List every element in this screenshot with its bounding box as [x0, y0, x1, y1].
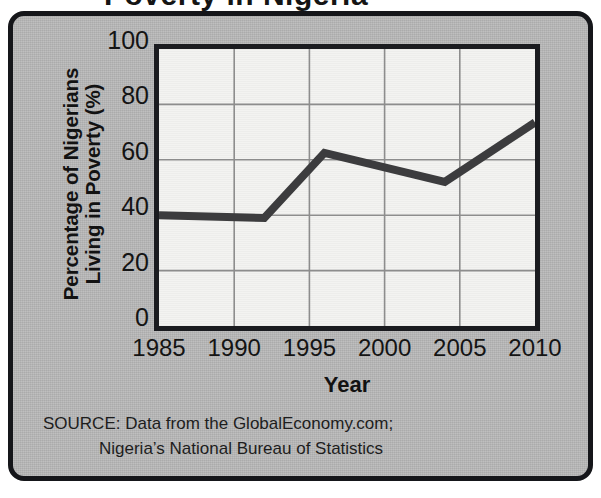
data-line	[159, 122, 535, 218]
y-axis-tick-label: 80	[91, 83, 149, 108]
x-axis-tick-label: 2010	[508, 336, 561, 360]
x-axis-tick-label: 1990	[207, 336, 260, 360]
x-axis-title: Year	[154, 372, 540, 398]
y-axis-tick-label: 60	[91, 138, 149, 163]
y-axis-tick-label: 40	[91, 194, 149, 219]
x-axis-tick-label: 2000	[358, 336, 411, 360]
poverty-line-chart: Percentage of Nigerians Living in Povert…	[13, 16, 598, 486]
y-axis-tick-label: 0	[91, 305, 149, 330]
x-axis-tick-labels: 198519901995200020052010	[154, 336, 540, 368]
y-axis-title-line-1: Percentage of Nigerians	[60, 68, 82, 300]
source-note: SOURCE: Data from the GlobalEconomy.com;…	[43, 412, 563, 461]
plot-inner	[159, 49, 535, 326]
x-axis-tick-label: 1985	[132, 336, 185, 360]
y-axis-tick-label: 100	[91, 28, 149, 53]
data-series-line	[159, 49, 535, 326]
source-line-1: SOURCE: Data from the GlobalEconomy.com;	[43, 412, 563, 437]
figure-panel: Percentage of Nigerians Living in Povert…	[8, 11, 593, 481]
x-axis-tick-label: 2005	[433, 336, 486, 360]
y-axis-tick-label: 20	[91, 249, 149, 274]
x-axis-tick-label: 1995	[283, 336, 336, 360]
y-axis-tick-labels: 020406080100	[91, 40, 149, 323]
plot-area	[154, 44, 540, 331]
source-line-2: Nigeria’s National Bureau of Statistics	[43, 437, 563, 462]
